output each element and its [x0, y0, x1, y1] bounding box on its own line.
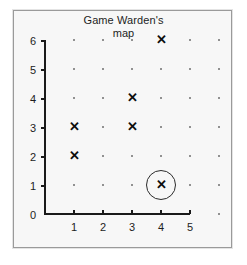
grid-dot	[189, 126, 192, 129]
grid-dot	[73, 97, 76, 100]
chart-title: Game Warden's map	[14, 14, 233, 39]
chart-title-line-2: map	[14, 27, 233, 40]
x-tick-3	[131, 210, 133, 214]
plot-area: Game Warden's map 6 5 4 3 2	[14, 11, 233, 249]
x-marker-icon: ✕	[124, 91, 140, 105]
y-tick-6	[41, 40, 45, 42]
grid-dot	[160, 126, 163, 129]
x-marker-icon: ✕	[66, 120, 82, 134]
grid-dot	[131, 39, 134, 42]
x-tick-label-2: 2	[96, 222, 110, 233]
figure-canvas: Game Warden's map 6 5 4 3 2	[0, 0, 247, 265]
grid-dot	[73, 184, 76, 187]
grid-dot	[189, 68, 192, 71]
grid-dot	[218, 155, 221, 158]
grid-dot	[218, 39, 221, 42]
y-tick-label-3: 3	[22, 123, 36, 134]
y-tick-label-2: 2	[22, 152, 36, 163]
grid-dot	[218, 184, 221, 187]
y-tick-4	[41, 98, 45, 100]
grid-dot	[160, 68, 163, 71]
grid-dot	[189, 39, 192, 42]
x-tick-label-4: 4	[154, 222, 168, 233]
chart-title-line-1: Game Warden's	[14, 14, 233, 27]
x-tick-label-1: 1	[67, 222, 81, 233]
grid-dot	[160, 97, 163, 100]
x-tick-1	[73, 210, 75, 214]
grid-dot	[189, 184, 192, 187]
x-tick-label-3: 3	[125, 222, 139, 233]
grid-dot	[218, 68, 221, 71]
figure-frame: Game Warden's map 6 5 4 3 2	[13, 10, 232, 248]
x-tick-5	[189, 210, 191, 214]
grid-dot	[218, 126, 221, 129]
grid-dot	[189, 97, 192, 100]
y-tick-label-0: 0	[22, 210, 36, 221]
x-marker-icon: ✕	[124, 120, 140, 134]
y-tick-5	[41, 69, 45, 71]
grid-dot	[189, 155, 192, 158]
grid-dot	[102, 184, 105, 187]
y-tick-label-5: 5	[22, 65, 36, 76]
grid-dot	[131, 155, 134, 158]
grid-dot	[102, 155, 105, 158]
x-marker-icon: ✕	[66, 149, 82, 163]
grid-dot	[102, 68, 105, 71]
grid-dot	[131, 184, 134, 187]
y-tick-3	[41, 127, 45, 129]
grid-dot	[218, 97, 221, 100]
x-tick-label-5: 5	[183, 222, 197, 233]
x-tick-2	[102, 210, 104, 214]
y-tick-label-6: 6	[22, 36, 36, 47]
x-axis-line	[44, 213, 190, 215]
y-tick-label-1: 1	[22, 181, 36, 192]
grid-dot	[218, 213, 221, 216]
grid-dot	[131, 68, 134, 71]
grid-dot	[73, 68, 76, 71]
grid-dot	[102, 97, 105, 100]
grid-dot	[102, 39, 105, 42]
y-tick-1	[41, 185, 45, 187]
y-tick-label-4: 4	[22, 94, 36, 105]
x-marker-icon: ✕	[153, 33, 169, 47]
x-marker-icon: ✕	[153, 178, 169, 192]
grid-dot	[102, 126, 105, 129]
x-tick-4	[160, 210, 162, 214]
grid-dot	[160, 155, 163, 158]
grid-dot	[73, 39, 76, 42]
y-tick-2	[41, 156, 45, 158]
